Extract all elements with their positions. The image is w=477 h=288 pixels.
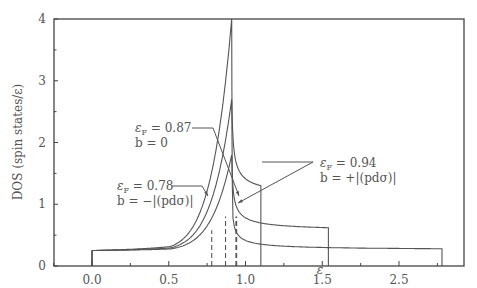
y-tick-label: 2 — [38, 136, 46, 150]
annotation-b-value: b = −|(pdσ)| — [117, 194, 193, 208]
annotation-fermi-energy: εF = 0.87 — [135, 121, 191, 137]
annotation-fermi-energy: εF = 0.78 — [117, 179, 173, 195]
y-tick-label: 0 — [38, 259, 46, 273]
x-tick-label: 1.0 — [236, 273, 255, 287]
x-tick-label: 0.5 — [159, 273, 178, 287]
fermi-level-lines — [212, 217, 237, 266]
dos-chart: 0.00.51.01.52.5 01234 εF = 0.87b = 0εF =… — [0, 0, 477, 288]
annotation-fermi-energy: εF = 0.94 — [320, 156, 377, 172]
annotations: εF = 0.87b = 0εF = 0.78b = −|(pdσ)|εF = … — [117, 121, 396, 208]
y-axis-ticks: 01234 — [38, 12, 58, 273]
x-axis-ticks: 0.00.51.01.52.5 — [54, 261, 438, 287]
y-tick-label: 3 — [38, 74, 46, 88]
y-tick-label: 4 — [38, 12, 46, 26]
dos-curve — [92, 99, 328, 266]
annotation-b-value: b = +|(pdσ)| — [320, 171, 396, 185]
arrow-icon — [238, 199, 243, 203]
y-axis-label: DOS (spin states/ε) — [11, 84, 25, 201]
plot-frame — [54, 19, 464, 266]
x-tick-label: 0.0 — [82, 273, 101, 287]
x-tick-label: 2.5 — [389, 273, 408, 287]
annotation-b-value: b = 0 — [135, 136, 168, 150]
x-axis-label: ε — [317, 263, 323, 277]
y-tick-label: 1 — [38, 197, 46, 211]
arrow-icon — [236, 191, 239, 196]
